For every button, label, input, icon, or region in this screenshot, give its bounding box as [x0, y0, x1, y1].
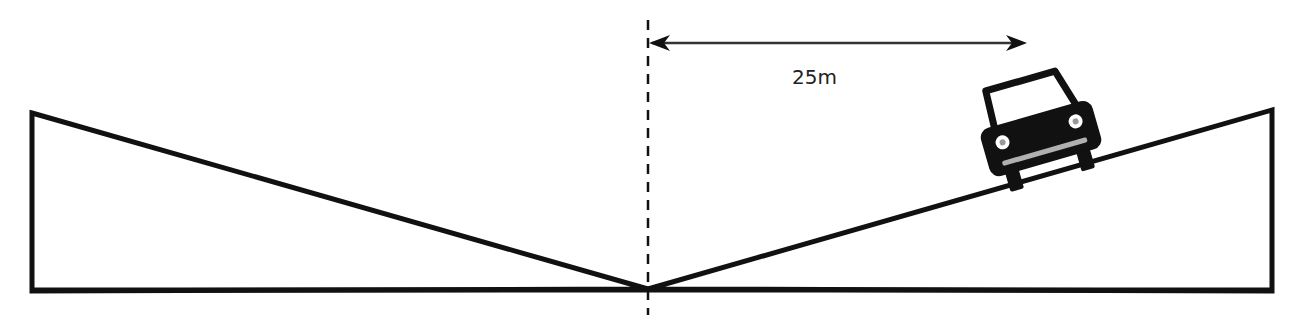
distance-arrow: [649, 35, 1027, 51]
distance-label: 25m: [792, 65, 837, 89]
diagram-canvas: 25m: [0, 0, 1296, 323]
right-ramp: [648, 110, 1272, 291]
left-ramp: [32, 113, 648, 291]
